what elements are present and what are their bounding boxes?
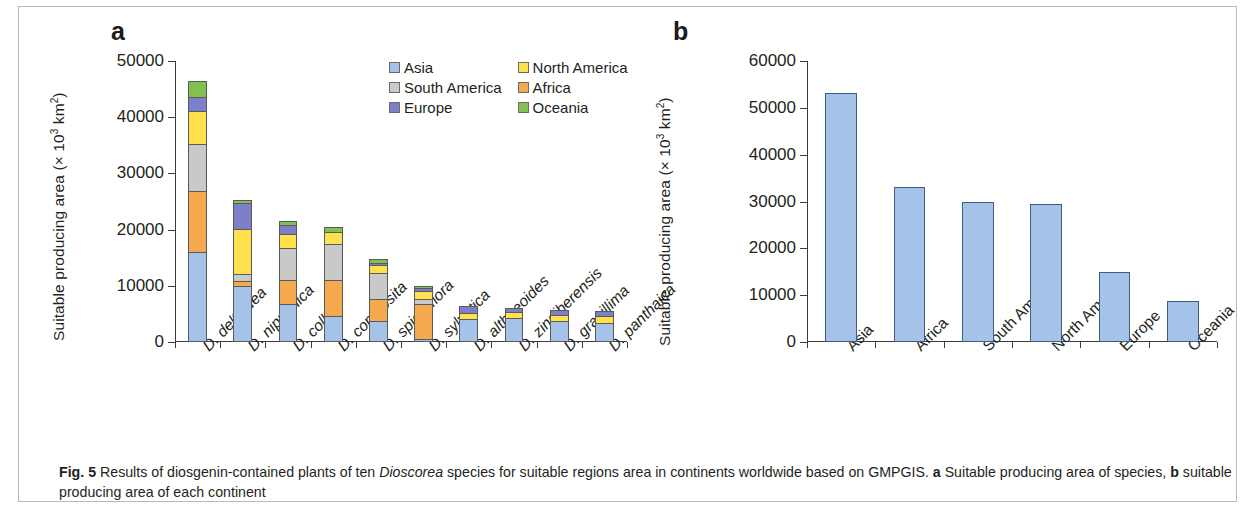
legend-item-south-america[interactable]: South America xyxy=(389,78,502,97)
panel-a-y-axis-line xyxy=(175,61,176,342)
legend-label: South America xyxy=(404,78,502,97)
panel-a-bar-segment-asia[interactable] xyxy=(595,323,614,342)
panel-a-y-tick xyxy=(168,342,175,343)
panel-a-bar-segment-europe[interactable] xyxy=(233,203,252,230)
panel-b-y-tick xyxy=(800,295,807,296)
panel-a-y-tick xyxy=(168,173,175,174)
panel-b-bar[interactable] xyxy=(1030,204,1061,342)
legend-swatch-icon xyxy=(389,82,400,93)
caption-bold-b: b xyxy=(1170,464,1179,480)
panel-a-stacked-bar[interactable] xyxy=(505,309,524,343)
panel-a-stacked-bar[interactable] xyxy=(188,82,207,342)
panel-a-stacked-bar[interactable] xyxy=(279,222,298,342)
legend-swatch-icon xyxy=(518,102,529,113)
panel-b-bar[interactable] xyxy=(894,187,925,342)
panel-b-plot-area: 0100002000030000400005000060000AsiaAfric… xyxy=(807,61,1217,342)
panel-a-stacked-bar[interactable] xyxy=(414,287,433,342)
legend-item-africa[interactable]: Africa xyxy=(518,78,628,97)
caption-bold-a: a xyxy=(933,464,941,480)
panel-a-stacked-bar[interactable] xyxy=(369,260,388,342)
panel-b-y-tick xyxy=(800,61,807,62)
panel-b-axis-title-sup: 3 xyxy=(655,134,666,140)
panel-a-letter: a xyxy=(111,19,125,44)
panel-a-y-tick xyxy=(168,286,175,287)
panel-b-x-tick xyxy=(875,342,876,348)
panel-b-axis-title-sup2: 2 xyxy=(655,103,666,109)
panel-b-y-axis-title: Suitable producing area (× 103 km2) xyxy=(655,97,674,346)
panel-a-stacked-bar[interactable] xyxy=(459,307,478,342)
caption-text-3: Suitable producing area of species, xyxy=(941,464,1171,480)
panel-a-bar-segment-south-america[interactable] xyxy=(324,244,343,281)
panel-b-bar[interactable] xyxy=(825,93,856,342)
figure-page: a Suitable producing area (× 103 km2) 01… xyxy=(0,0,1253,525)
legend-label: Africa xyxy=(533,78,571,97)
figure-frame: a Suitable producing area (× 103 km2) 01… xyxy=(18,6,1237,502)
panel-a-bar-segment-africa[interactable] xyxy=(369,299,388,323)
panel-a: a Suitable producing area (× 103 km2) 01… xyxy=(27,11,647,451)
caption-text-2: species for suitable regions area in con… xyxy=(443,464,933,480)
legend-label: Europe xyxy=(404,98,452,117)
panel-b-y-tick xyxy=(800,342,807,343)
panel-a-bar-segment-north-america[interactable] xyxy=(188,111,207,145)
panel-a-y-tick-label: 0 xyxy=(155,332,164,352)
panel-b-y-tick-label: 30000 xyxy=(749,192,796,212)
legend-item-north-america[interactable]: North America xyxy=(518,58,628,77)
legend-label: Asia xyxy=(404,58,433,77)
caption-text-1: Results of diosgenin-contained plants of… xyxy=(96,464,379,480)
panel-a-y-tick xyxy=(168,61,175,62)
legend-swatch-icon xyxy=(518,82,529,93)
panel-a-y-tick-label: 40000 xyxy=(117,107,164,127)
legend-label: Oceania xyxy=(533,98,589,117)
panel-a-bar-segment-asia[interactable] xyxy=(233,286,252,342)
panel-a-y-tick-label: 10000 xyxy=(117,276,164,296)
panel-b-x-tick xyxy=(807,342,808,348)
panel-b-y-tick xyxy=(800,155,807,156)
caption-label: Fig. 5 xyxy=(59,464,96,480)
legend-label: North America xyxy=(533,58,628,77)
panel-a-y-axis-title: Suitable producing area (× 103 km2) xyxy=(49,92,68,341)
panel-a-bar-segment-asia[interactable] xyxy=(550,321,569,342)
panel-b-bar[interactable] xyxy=(1099,272,1130,342)
panel-a-bar-segment-asia[interactable] xyxy=(324,316,343,342)
panel-a-stacked-bar[interactable] xyxy=(233,201,252,342)
panel-a-bar-segment-oceania[interactable] xyxy=(188,81,207,97)
panel-a-bar-segment-asia[interactable] xyxy=(505,318,524,342)
panel-b-axis-title-prefix: Suitable producing area (× 10 xyxy=(656,139,673,346)
panel-b-y-tick xyxy=(800,202,807,203)
panel-a-bar-segment-africa[interactable] xyxy=(188,191,207,252)
panel-a-x-tick xyxy=(175,342,176,348)
panel-a-y-tick xyxy=(168,230,175,231)
panel-b-x-tick xyxy=(1149,342,1150,348)
panel-a-bar-segment-africa[interactable] xyxy=(279,280,298,305)
panel-a-y-tick-label: 20000 xyxy=(117,220,164,240)
panel-a-bar-segment-africa[interactable] xyxy=(324,280,343,317)
panel-b-x-tick xyxy=(944,342,945,348)
panel-a-bar-segment-asia[interactable] xyxy=(459,319,478,342)
panel-b-y-tick-label: 10000 xyxy=(749,285,796,305)
panel-a-bar-segment-asia[interactable] xyxy=(188,252,207,342)
panel-a-bar-segment-north-america[interactable] xyxy=(233,229,252,275)
panel-a-stacked-bar[interactable] xyxy=(595,312,614,342)
panel-a-bar-segment-africa[interactable] xyxy=(414,304,433,339)
legend-item-europe[interactable]: Europe xyxy=(389,98,502,117)
panel-a-bar-segment-south-america[interactable] xyxy=(279,248,298,281)
legend-item-oceania[interactable]: Oceania xyxy=(518,98,628,117)
panel-a-bar-segment-europe[interactable] xyxy=(188,97,207,112)
panel-b-bar[interactable] xyxy=(962,202,993,343)
panel-a-bar-segment-north-america[interactable] xyxy=(279,234,298,250)
panel-a-bar-segment-asia[interactable] xyxy=(369,321,388,342)
legend-swatch-icon xyxy=(389,62,400,73)
panel-b-x-tick xyxy=(1080,342,1081,348)
panel-a-stacked-bar[interactable] xyxy=(550,311,569,342)
legend-item-asia[interactable]: Asia xyxy=(389,58,502,77)
panel-b-y-tick-label: 50000 xyxy=(749,98,796,118)
panel-a-bar-segment-asia[interactable] xyxy=(414,339,433,342)
panel-b-axis-title-end: ) xyxy=(656,97,673,102)
panel-b-y-tick-label: 20000 xyxy=(749,238,796,258)
panel-a-axis-title-suffix: km xyxy=(50,103,67,128)
panel-a-bar-segment-south-america[interactable] xyxy=(188,144,207,192)
panel-b-bar[interactable] xyxy=(1167,301,1198,342)
panel-a-bar-segment-south-america[interactable] xyxy=(369,273,388,300)
panel-a-stacked-bar[interactable] xyxy=(324,228,343,342)
panel-a-bar-segment-asia[interactable] xyxy=(279,304,298,342)
